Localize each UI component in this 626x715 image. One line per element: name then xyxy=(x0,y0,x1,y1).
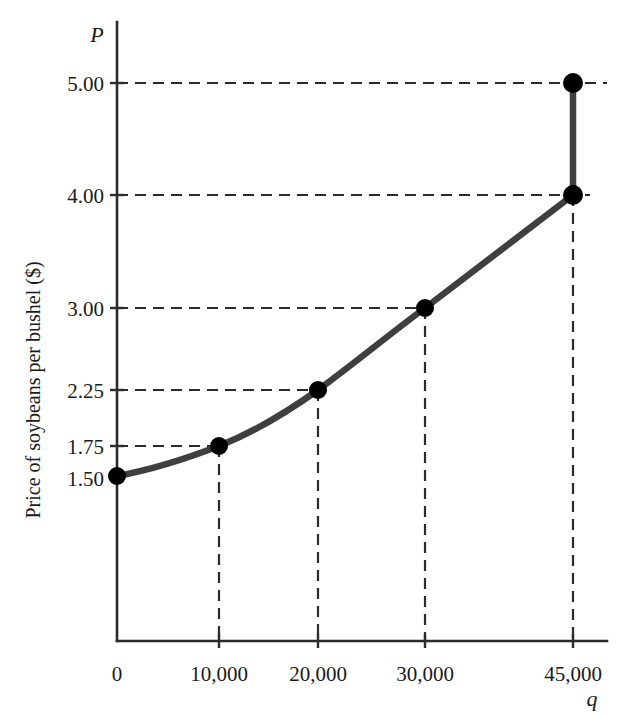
x-axis-symbol: q xyxy=(587,686,598,711)
x-tick-label-30000: 30,000 xyxy=(396,662,454,686)
data-point-45000-high xyxy=(563,73,583,93)
data-point-10000 xyxy=(210,437,228,455)
data-point-markers xyxy=(108,73,583,485)
y-tick-label-300: 3.00 xyxy=(67,297,104,321)
y-tick-label-150: 1.50 xyxy=(67,467,104,491)
y-axis-title: Price of soybeans per bushel ($) xyxy=(22,261,45,518)
supply-curve xyxy=(117,83,573,476)
x-tick-label-45000: 45,000 xyxy=(544,662,602,686)
y-tick-label-500: 5.00 xyxy=(67,72,104,96)
x-tick-label-10000: 10,000 xyxy=(190,662,248,686)
supply-curve-chart: 5.00 4.00 3.00 2.25 1.75 1.50 0 10,000 2… xyxy=(0,0,626,715)
x-tick-label-20000: 20,000 xyxy=(289,662,347,686)
y-axis-symbol: P xyxy=(89,22,103,47)
data-point-20000 xyxy=(309,381,327,399)
y-tick-label-225: 2.25 xyxy=(67,379,104,403)
y-tick-label-175: 1.75 xyxy=(67,435,104,459)
data-point-0 xyxy=(108,467,126,485)
y-tick-label-400: 4.00 xyxy=(67,184,104,208)
data-point-30000 xyxy=(416,299,434,317)
supply-curve-path xyxy=(117,195,573,476)
horizontal-guide-lines xyxy=(117,83,607,446)
chart-svg: 5.00 4.00 3.00 2.25 1.75 1.50 0 10,000 2… xyxy=(0,0,626,715)
axes xyxy=(117,22,607,641)
data-point-45000-low xyxy=(563,185,583,205)
x-tick-label-0: 0 xyxy=(112,662,123,686)
